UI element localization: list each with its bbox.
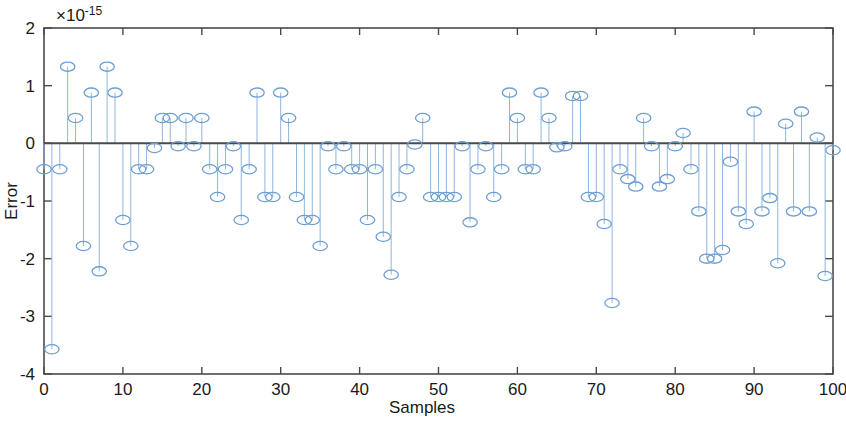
x-tick-label: 70 — [587, 380, 606, 399]
x-tick-label: 10 — [113, 380, 132, 399]
y-tick-label: 2 — [26, 19, 35, 38]
y-axis-title: Error — [2, 182, 21, 220]
x-axis-title: Samples — [389, 398, 455, 417]
y-tick-label: -1 — [20, 192, 35, 211]
x-tick-label: 40 — [350, 380, 369, 399]
y-tick-label: -4 — [20, 365, 35, 384]
stem-plot: 0102030405060708090100 210-1-2-3-4 ×10-1… — [0, 0, 846, 423]
y-tick-label: -2 — [20, 250, 35, 269]
x-tick-label: 50 — [429, 380, 448, 399]
x-tick-label: 60 — [508, 380, 527, 399]
x-tick-label: 80 — [666, 380, 685, 399]
x-tick-label: 100 — [819, 380, 846, 399]
x-tick-label: 0 — [39, 380, 48, 399]
plot-background — [0, 0, 846, 423]
y-tick-label: 1 — [26, 77, 35, 96]
y-tick-label: -3 — [20, 307, 35, 326]
y-tick-label: 0 — [26, 134, 35, 153]
x-tick-label: 20 — [192, 380, 211, 399]
x-tick-label: 30 — [271, 380, 290, 399]
x-tick-label: 90 — [745, 380, 764, 399]
figure-container: 0102030405060708090100 210-1-2-3-4 ×10-1… — [0, 0, 846, 423]
